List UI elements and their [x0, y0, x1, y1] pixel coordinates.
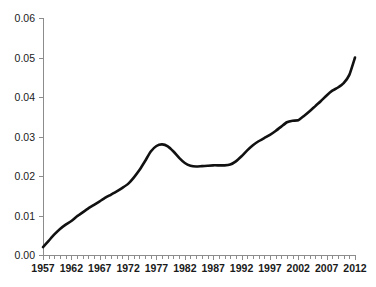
x-tick-label: 2002	[287, 262, 311, 274]
y-axis-tick-labels: 0.060.050.040.030.020.010.00	[15, 12, 36, 261]
y-axis-ticks	[39, 19, 43, 256]
y-tick-label: 0.01	[15, 210, 36, 222]
x-tick-label: 1972	[116, 262, 140, 274]
x-tick-label: 1957	[31, 262, 55, 274]
plot-area	[43, 58, 355, 248]
x-tick-label: 2012	[343, 262, 367, 274]
y-tick-label: 0.05	[15, 52, 36, 64]
line-chart: 0.060.050.040.030.020.010.00 19571962196…	[0, 0, 376, 287]
x-tick-label: 2007	[315, 262, 339, 274]
x-tick-label: 1992	[230, 262, 254, 274]
y-tick-label: 0.03	[15, 131, 36, 143]
x-tick-label: 1967	[88, 262, 112, 274]
x-tick-label: 1977	[145, 262, 169, 274]
x-tick-label: 1997	[258, 262, 282, 274]
x-axis: 1957196219671972197719821987199219972002…	[31, 255, 367, 274]
y-tick-label: 0.04	[15, 91, 36, 103]
y-axis: 0.060.050.040.030.020.010.00	[15, 12, 44, 261]
x-tick-label: 1987	[202, 262, 226, 274]
y-tick-label: 0.02	[15, 170, 36, 182]
y-tick-label: 0.00	[15, 249, 36, 261]
x-tick-label: 1982	[173, 262, 197, 274]
data-series-line	[43, 58, 355, 248]
x-axis-tick-labels: 1957196219671972197719821987199219972002…	[31, 262, 367, 274]
y-tick-label: 0.06	[15, 12, 36, 24]
x-tick-label: 1962	[60, 262, 84, 274]
chart-container: 0.060.050.040.030.020.010.00 19571962196…	[0, 0, 376, 287]
